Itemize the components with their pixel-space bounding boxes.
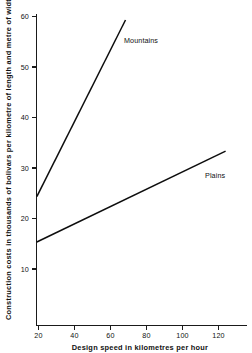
x-tick-labels: 20 40 60 80 100 120 [34,331,224,340]
y-tick-labels: 60 50 40 30 20 10 [21,12,29,274]
x-tick-label-40: 40 [70,331,78,340]
line-chart: 60 50 40 30 20 10 20 40 60 80 100 120 Mo… [0,0,252,353]
x-tick-marks [39,326,219,331]
series-line-plains [37,151,226,242]
x-tick-label-20: 20 [34,331,42,340]
chart-container: 60 50 40 30 20 10 20 40 60 80 100 120 Mo… [0,0,252,353]
y-axis-title: Construction costs in thousands of boliv… [4,0,13,320]
y-tick-marks [32,17,37,270]
series-annotation-plains: Plains [205,171,225,180]
y-tick-label-60: 60 [21,12,29,21]
x-tick-label-100: 100 [176,331,188,340]
x-tick-label-60: 60 [106,331,114,340]
y-tick-label-10: 10 [21,265,29,274]
x-tick-label-120: 120 [212,331,224,340]
series-line-mountains [37,20,126,197]
y-tick-label-30: 30 [21,164,29,173]
x-axis-title: Design speed in kilometres per hour [72,343,208,352]
y-tick-label-20: 20 [21,214,29,223]
y-tick-label-50: 50 [21,63,29,72]
series-annotation-mountains: Mountains [124,36,158,45]
x-tick-label-80: 80 [142,331,150,340]
y-tick-label-40: 40 [21,113,29,122]
